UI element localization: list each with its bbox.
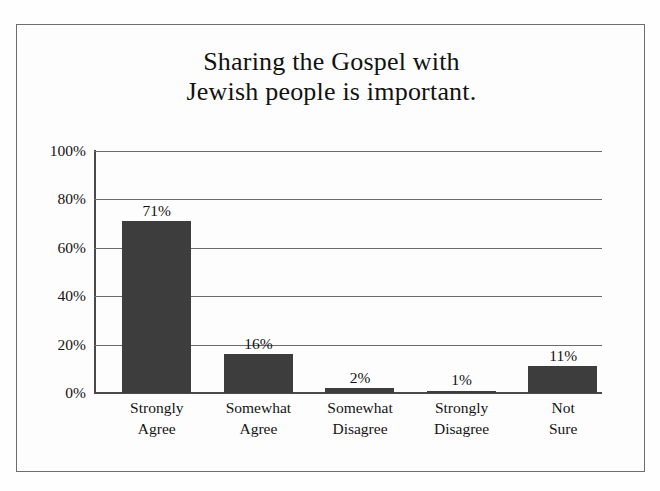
x-cat-label-somewhat-disagree: Somewhat Disagree	[309, 397, 411, 439]
x-cat-label-somewhat-agree: Somewhat Agree	[208, 397, 310, 439]
bar-value-strongly-agree: 71%	[106, 203, 208, 219]
x-cat-line-1: Strongly	[106, 397, 208, 418]
bar-slot-somewhat-disagree: 2%	[309, 151, 411, 393]
x-axis-category-labels: Strongly Agree Somewhat Agree Somewhat D…	[94, 397, 602, 457]
y-tick-label-100: 100%	[26, 143, 86, 159]
x-cat-label-not-sure: Not Sure	[512, 397, 614, 439]
bar-somewhat-agree[interactable]	[224, 354, 293, 393]
bar-somewhat-disagree[interactable]	[325, 388, 394, 393]
chart-title: Sharing the Gospel with Jewish people is…	[17, 47, 646, 107]
x-cat-line-1: Somewhat	[309, 397, 411, 418]
x-cat-label-strongly-agree: Strongly Agree	[106, 397, 208, 439]
bar-slot-strongly-agree: 71%	[106, 151, 208, 393]
x-cat-line-1: Somewhat	[208, 397, 310, 418]
figure-frame: Sharing the Gospel with Jewish people is…	[16, 24, 645, 472]
x-cat-line-1: Not	[512, 397, 614, 418]
chart-title-line-2: Jewish people is important.	[17, 77, 646, 107]
y-tick-label-40: 40%	[26, 288, 86, 304]
bar-value-somewhat-agree: 16%	[208, 336, 310, 352]
chart-title-line-1: Sharing the Gospel with	[17, 47, 646, 77]
x-cat-line-1: Strongly	[411, 397, 513, 418]
x-cat-line-2: Agree	[106, 418, 208, 439]
bar-slot-strongly-disagree: 1%	[411, 151, 513, 393]
x-cat-line-2: Disagree	[309, 418, 411, 439]
y-tick-label-80: 80%	[26, 191, 86, 207]
plot-area: 71% 16% 2% 1% 11%	[94, 151, 602, 393]
chart-page: Sharing the Gospel with Jewish people is…	[0, 0, 660, 491]
bar-value-strongly-disagree: 1%	[411, 372, 513, 388]
bar-not-sure[interactable]	[528, 366, 597, 393]
y-axis-tick-labels: 100% 80% 60% 40% 20% 0%	[24, 151, 94, 393]
x-cat-line-2: Sure	[512, 418, 614, 439]
y-tick-label-60: 60%	[26, 240, 86, 256]
y-tick-label-0: 0%	[26, 385, 86, 401]
y-axis-line	[94, 150, 96, 394]
bar-value-not-sure: 11%	[512, 348, 614, 364]
bar-slot-somewhat-agree: 16%	[208, 151, 310, 393]
x-cat-label-strongly-disagree: Strongly Disagree	[411, 397, 513, 439]
bar-strongly-disagree[interactable]	[427, 391, 496, 393]
x-cat-line-2: Disagree	[411, 418, 513, 439]
bar-value-somewhat-disagree: 2%	[309, 370, 411, 386]
x-cat-line-2: Agree	[208, 418, 310, 439]
bar-slot-not-sure: 11%	[512, 151, 614, 393]
y-tick-label-20: 20%	[26, 337, 86, 353]
bar-strongly-agree[interactable]	[122, 221, 191, 393]
